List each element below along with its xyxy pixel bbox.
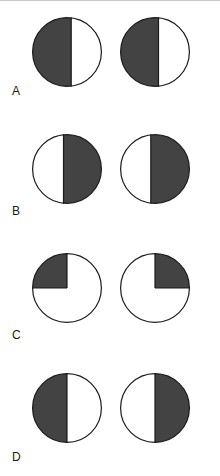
circle-d-left xyxy=(32,373,102,443)
circle-b-right xyxy=(120,134,190,204)
row-label-b: B xyxy=(12,205,20,217)
figure-row-a: A xyxy=(0,1,220,119)
circle-d-right xyxy=(120,373,190,443)
circle-a-left-slot xyxy=(32,17,102,87)
circle-pair-a xyxy=(0,1,220,119)
circle-b-right-slot xyxy=(120,134,190,204)
circle-pair-b xyxy=(0,119,220,237)
circle-d-left-slot xyxy=(32,373,102,443)
figure-row-d: D xyxy=(0,355,220,473)
circle-a-right-slot xyxy=(120,17,190,87)
circle-c-right xyxy=(120,253,190,323)
circle-c-left xyxy=(32,253,102,323)
circle-a-right xyxy=(120,17,190,87)
circle-c-right-slot xyxy=(120,253,190,323)
row-label-d: D xyxy=(12,451,21,463)
circle-a-left xyxy=(32,17,102,87)
circle-pair-d xyxy=(0,355,220,473)
circle-d-right-slot xyxy=(120,373,190,443)
row-label-a: A xyxy=(12,85,20,97)
figure-sheet: A B C D xyxy=(0,0,220,476)
figure-row-c: C xyxy=(0,237,220,355)
row-label-c: C xyxy=(12,329,21,341)
circle-c-left-slot xyxy=(32,253,102,323)
figure-row-b: B xyxy=(0,119,220,237)
circle-b-left-slot xyxy=(32,134,102,204)
circle-pair-c xyxy=(0,237,220,355)
circle-b-left xyxy=(32,134,102,204)
